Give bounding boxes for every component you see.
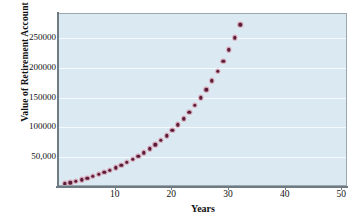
x-axis-tick-mark xyxy=(341,186,342,190)
retirement-growth-chart: Value of Retirement Account 50,000100000… xyxy=(0,0,359,222)
data-point xyxy=(239,23,242,26)
gridline xyxy=(59,68,346,69)
gridline xyxy=(59,157,346,158)
data-point xyxy=(216,70,219,73)
data-point xyxy=(114,166,117,169)
x-axis-tick-label: 10 xyxy=(95,189,135,199)
x-axis-tick-mark xyxy=(285,186,286,190)
x-axis-tick-label: 20 xyxy=(151,189,191,199)
data-point xyxy=(154,143,157,146)
gridline xyxy=(59,98,346,99)
data-point xyxy=(69,181,72,184)
x-axis-line xyxy=(56,186,348,188)
data-point xyxy=(97,173,100,176)
y-axis-tick-label: 50,000 xyxy=(2,151,56,161)
data-point xyxy=(159,139,162,142)
data-point xyxy=(148,147,151,150)
gridline xyxy=(59,127,346,128)
data-point xyxy=(131,158,134,161)
data-point xyxy=(227,48,230,51)
data-point xyxy=(171,129,174,132)
gridline xyxy=(59,38,346,39)
data-point xyxy=(74,179,77,182)
data-point xyxy=(125,161,128,164)
data-point xyxy=(165,134,168,137)
x-axis-tick-label: 30 xyxy=(208,189,248,199)
x-axis-tick-mark xyxy=(115,186,116,190)
y-axis-tick-label: 150000 xyxy=(2,92,56,102)
data-point xyxy=(210,79,213,82)
data-point xyxy=(188,111,191,114)
data-point xyxy=(86,176,89,179)
data-point xyxy=(120,163,123,166)
data-point xyxy=(80,178,83,181)
y-axis-line xyxy=(57,12,59,188)
y-axis-tick-label: 200000 xyxy=(2,62,56,72)
y-axis-tick-label: 100000 xyxy=(2,121,56,131)
y-axis-tick-label: 250000 xyxy=(2,32,56,42)
data-point xyxy=(103,171,106,174)
data-point xyxy=(199,96,202,99)
data-point xyxy=(91,175,94,178)
x-axis-tick-label: 40 xyxy=(265,189,305,199)
data-point xyxy=(63,182,66,185)
y-axis-tick-labels: 50,000100000150000200000250000 xyxy=(0,0,56,222)
plot-area xyxy=(58,13,347,186)
x-axis-tick-mark xyxy=(171,186,172,190)
x-axis-tick-label: 50 xyxy=(321,189,359,199)
data-point xyxy=(176,123,179,126)
data-point xyxy=(233,36,236,39)
x-axis-title: Years xyxy=(58,203,348,214)
x-axis-tick-mark xyxy=(228,186,229,190)
data-point xyxy=(142,151,145,154)
data-point xyxy=(222,59,225,62)
data-point xyxy=(108,168,111,171)
data-point xyxy=(182,117,185,120)
data-point xyxy=(205,88,208,91)
data-point xyxy=(193,104,196,107)
